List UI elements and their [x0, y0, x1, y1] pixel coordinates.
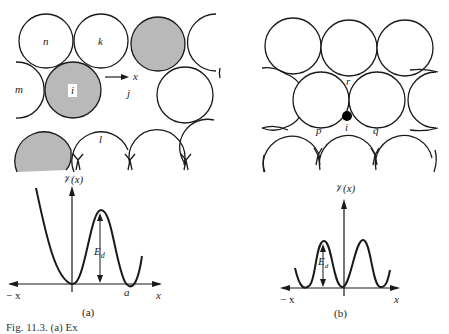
atom-partial-right-top [188, 14, 217, 71]
label-q: q [373, 124, 379, 136]
label-b-i: i [345, 121, 348, 133]
panel-a-tag: (a) [82, 306, 95, 319]
atom-b-top-2 [321, 20, 377, 76]
plot-a [8, 186, 162, 292]
plot-b [280, 199, 400, 296]
atom-b-mid-2 [349, 72, 405, 128]
atom-b-top-3 [377, 20, 433, 76]
label-m: m [15, 83, 23, 95]
atom-right-mid [157, 67, 213, 123]
atom-shaded-bottom [15, 132, 71, 172]
x-label-b: x [393, 293, 399, 305]
label-p: p [315, 124, 322, 136]
y-label-b: 𝒱(x) [334, 182, 356, 195]
x-label-a: x [155, 289, 161, 301]
barrier-label-b: Ed′ [317, 252, 330, 270]
label-j: j [125, 87, 130, 99]
figure-caption: Fig. 11.3. (a) Ex [6, 321, 78, 333]
label-x-direction: x [132, 70, 138, 82]
potential-curve-a [36, 188, 142, 286]
panel-b-tag: (b) [334, 307, 347, 320]
atom-shaded-top [131, 17, 185, 71]
atom-bottom-3 [129, 130, 185, 165]
panel-b-lattice [262, 18, 438, 172]
atom-b-mid-1 [293, 72, 349, 128]
neg-x-label-a: − x [6, 289, 21, 301]
label-r: r [346, 75, 351, 87]
atom-b-top-1 [265, 18, 321, 74]
neg-x-label-b: − x [280, 293, 295, 305]
label-n: n [43, 35, 49, 47]
label-l: l [99, 133, 102, 145]
label-i: i [71, 84, 74, 96]
a-label: a [124, 286, 130, 298]
barrier-label-a: Ed [93, 245, 106, 260]
potential-curve-b [295, 240, 390, 288]
direction-arrow-icon [105, 74, 129, 80]
diffusion-figure: n k m i j l x r p i q [0, 0, 449, 334]
adatom-i [342, 111, 352, 121]
y-label-a: 𝒱(x) [62, 173, 84, 186]
